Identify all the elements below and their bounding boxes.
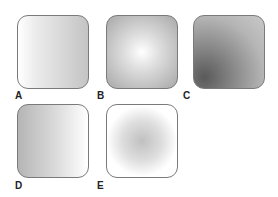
swatch-label-e: E (97, 180, 104, 191)
swatch-label-a: A (15, 90, 22, 101)
gradient-swatch-d (17, 104, 89, 178)
gradient-swatch-b (106, 15, 178, 89)
gradient-swatch-a (17, 15, 89, 89)
swatch-label-d: D (15, 180, 22, 191)
gradient-swatch-e (106, 104, 178, 178)
swatch-label-b: B (97, 90, 104, 101)
gradient-swatch-c (193, 15, 265, 89)
swatch-label-c: C (183, 90, 190, 101)
